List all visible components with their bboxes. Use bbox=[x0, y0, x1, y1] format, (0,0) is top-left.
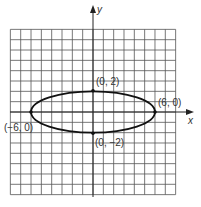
x-axis-label: x bbox=[188, 116, 193, 126]
point-bottom-vertex bbox=[91, 132, 95, 136]
label-bottom-vertex: (0, −2) bbox=[95, 138, 124, 148]
y-axis-label: y bbox=[97, 5, 102, 15]
point-top-vertex bbox=[91, 89, 95, 93]
label-right-vertex: (6, 0) bbox=[158, 98, 181, 108]
label-top-vertex: (0, 2) bbox=[96, 77, 119, 87]
y-axis bbox=[90, 5, 96, 197]
label-left-vertex: (−6, 0) bbox=[4, 123, 33, 133]
x-axis bbox=[10, 109, 194, 115]
point-left-vertex bbox=[29, 110, 33, 114]
y-axis-arrow-icon bbox=[90, 5, 96, 13]
point-right-vertex bbox=[153, 110, 157, 114]
